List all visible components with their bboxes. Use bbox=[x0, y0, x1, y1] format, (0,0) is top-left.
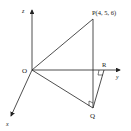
axis-label-x: x bbox=[5, 121, 9, 127]
right-angle-mark-r bbox=[98, 70, 103, 75]
point-label-r: R bbox=[102, 61, 107, 68]
point-label-q: Q bbox=[90, 112, 95, 120]
x-axis bbox=[11, 70, 32, 116]
segment-op bbox=[32, 19, 93, 70]
point-label-p: P(4, 5, 6) bbox=[92, 9, 116, 17]
axis-label-z: z bbox=[21, 8, 25, 14]
axis-label-y: y bbox=[115, 74, 119, 80]
right-angle-mark-q bbox=[89, 101, 93, 106]
segment-qr bbox=[93, 70, 104, 108]
point-label-o: O bbox=[22, 67, 27, 75]
segment-oq bbox=[32, 70, 93, 108]
coordinate-diagram: z y x O P(4, 5, 6) R Q bbox=[0, 0, 131, 131]
